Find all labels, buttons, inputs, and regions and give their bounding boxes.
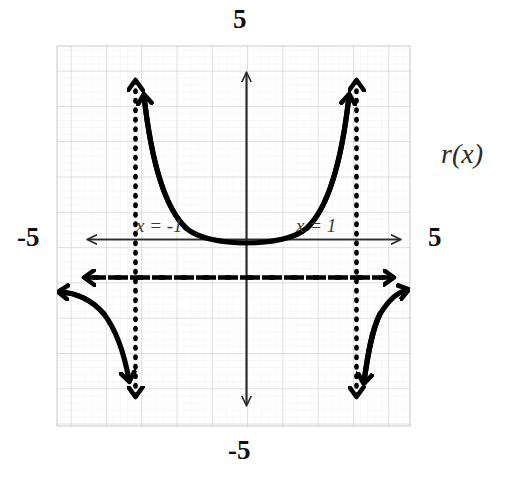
graph-figure: 5 -5 -5 5 r(x) x = -1 x = 1 [0,0,507,480]
axis-label-top: 5 [233,6,247,33]
axis-label-left: -5 [17,224,40,251]
axis-label-bottom: -5 [228,437,251,464]
vertical-asymptote-left-label: x = -1 [136,216,183,235]
axis-label-right: 5 [428,224,442,251]
vertical-asymptote-right-label: x = 1 [296,216,336,235]
function-label: r(x) [441,140,483,168]
